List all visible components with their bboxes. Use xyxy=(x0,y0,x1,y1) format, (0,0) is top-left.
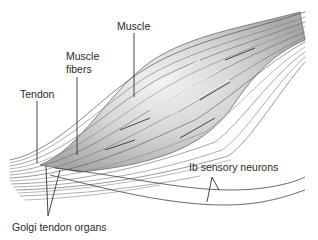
muscle-belly xyxy=(40,12,305,172)
label-ib-sensory-neurons: Ib sensory neurons xyxy=(189,161,278,173)
ib-sensory-neurons xyxy=(50,168,305,205)
label-muscle-fibers-line2: fibers xyxy=(66,63,92,75)
label-muscle: Muscle xyxy=(117,20,150,32)
muscle-illustration xyxy=(0,0,318,240)
label-muscle-fibers-line1: Muscle xyxy=(66,50,99,62)
label-golgi-tendon-organs: Golgi tendon organs xyxy=(12,221,107,233)
label-tendon: Tendon xyxy=(20,88,54,100)
muscle-diagram: Muscle Muscle fibers Tendon Ib sensory n… xyxy=(0,0,318,240)
